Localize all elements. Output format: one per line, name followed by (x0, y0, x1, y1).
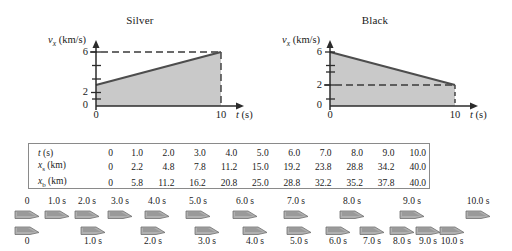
x-tick-label-10-silver: 10 (212, 109, 230, 120)
car-icon (399, 209, 425, 222)
car-icon (242, 225, 268, 238)
black-car-car-marker (80, 224, 106, 242)
data-table: t (s)01.02.03.04.05.06.07.08.09.010.0xs … (28, 143, 430, 189)
table-cell: 3.0 (177, 147, 208, 159)
y-tick-label-2-silver: 2 (68, 86, 88, 97)
table-row-label: xb (km) (36, 175, 88, 191)
table-cell: 28.8 (335, 159, 366, 175)
silver-car-time-label: 0 (25, 196, 30, 206)
silver-car-car-marker (44, 208, 70, 226)
silver-car-car-marker (465, 208, 491, 226)
table-cell: 19.2 (272, 159, 303, 175)
table-row: xs (km)02.24.87.811.215.019.223.828.834.… (36, 159, 429, 175)
table-cell: 20.8 (209, 175, 240, 191)
x-axis-units: (s) (476, 109, 487, 120)
y-axis-arrowhead-black (327, 40, 334, 48)
black-car-car-marker (389, 224, 415, 242)
y-tick-label-2-black: 2 (302, 79, 322, 90)
graph-silver: Silver vx (km/s) (46, 14, 266, 126)
silver-car-time-label: 1.0 s (48, 196, 66, 206)
y-tick-label-6-black: 6 (302, 46, 322, 57)
table-cell: 8.0 (335, 147, 366, 159)
table-row: t (s)01.02.03.04.05.06.07.08.09.010.0 (36, 147, 429, 159)
table-cell: 9.0 (366, 147, 397, 159)
x-tick-label-10-black: 10 (446, 109, 464, 120)
table-cell: 10.0 (397, 147, 429, 159)
silver-car-time-label: 8.0 s (343, 196, 361, 206)
car-icon (140, 225, 166, 238)
table-row-label: xs (km) (36, 159, 88, 175)
black-car-car-marker (286, 224, 312, 242)
car-icon (439, 225, 465, 238)
car-icon (232, 209, 258, 222)
table-cell: 4.8 (146, 159, 177, 175)
table-row-symbol: xb (38, 176, 46, 186)
y-axis-arrowhead-silver (93, 40, 100, 48)
table-cell: 7.8 (177, 159, 208, 175)
black-car-car-marker (439, 224, 465, 242)
table-cell: 35.2 (335, 175, 366, 191)
table-cell: 7.0 (303, 147, 334, 159)
x-axis-symbol: t (470, 109, 473, 120)
table-cell: 2.0 (146, 147, 177, 159)
table-cell: 0 (88, 159, 116, 175)
car-icon (359, 225, 385, 238)
silver-car-time-label: 6.0 s (236, 196, 254, 206)
car-icon (80, 225, 106, 238)
y-tick-label-6-silver: 6 (68, 46, 88, 57)
black-car-car-marker (325, 224, 351, 242)
table-cell: 5.0 (240, 147, 271, 159)
table-cell: 40.0 (397, 159, 429, 175)
car-icon (185, 209, 211, 222)
table-cell: 11.2 (146, 175, 177, 191)
table-cell: 25.0 (240, 175, 271, 191)
table-cell: 2.2 (116, 159, 146, 175)
silver-car-car-marker (107, 208, 133, 226)
table-cell: 40.0 (397, 175, 429, 191)
x-axis-label-silver: t (s) (236, 109, 253, 120)
table-cell: 5.8 (116, 175, 146, 191)
table-row-label: t (s) (36, 147, 88, 159)
graph-black: Black vx (km/s) (280, 14, 500, 126)
table-cell: 4.0 (209, 147, 240, 159)
car-icon (107, 209, 133, 222)
x-tick-label-0-silver: 0 (88, 109, 104, 120)
x-axis-label-black: t (s) (470, 109, 487, 120)
car-icon (389, 225, 415, 238)
car-icon (194, 225, 220, 238)
table-cell: 32.2 (303, 175, 334, 191)
silver-car-time-label: 10.0 s (467, 196, 490, 206)
black-car-car-marker (140, 224, 166, 242)
table-cell: 15.0 (240, 159, 271, 175)
y-tick-label-0-silver: 0 (68, 99, 88, 110)
silver-car-time-label: 5.0 s (189, 196, 207, 206)
y-tick-label-0-black: 0 (302, 99, 322, 110)
physics-figure-page: Silver vx (km/s) (0, 0, 512, 251)
table-row-symbol: t (38, 148, 41, 158)
car-icon (465, 209, 491, 222)
car-icon (44, 209, 70, 222)
car-icon (415, 225, 441, 238)
x-axis-symbol: t (236, 109, 239, 120)
table-cell: 0 (88, 175, 116, 191)
car-icon (286, 225, 312, 238)
table-cell: 23.8 (303, 159, 334, 175)
table-cell: 16.2 (177, 175, 208, 191)
table-cell: 34.2 (366, 159, 397, 175)
car-icon (325, 225, 351, 238)
silver-car-time-label: 4.0 s (148, 196, 166, 206)
black-car-car-marker (415, 224, 441, 242)
table-cell: 37.8 (366, 175, 397, 191)
black-car-car-marker (14, 224, 40, 242)
x-tick-label-0-black: 0 (322, 109, 338, 120)
table-row-subscript: b (42, 181, 46, 189)
table-cell: 11.2 (209, 159, 240, 175)
table-row: xb (km)05.811.216.220.825.028.832.235.23… (36, 175, 429, 191)
car-icon (339, 209, 365, 222)
table-row-subscript: s (42, 165, 45, 173)
silver-car-time-label: 2.0 s (78, 196, 96, 206)
car-icon (74, 209, 100, 222)
data-table-grid: t (s)01.02.03.04.05.06.07.08.09.010.0xs … (36, 147, 429, 191)
black-car-car-marker (242, 224, 268, 242)
car-icon (14, 225, 40, 238)
